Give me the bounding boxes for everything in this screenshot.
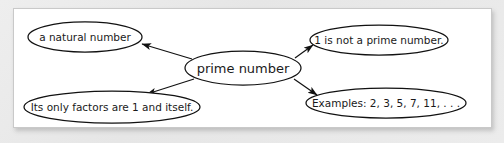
node-examples[interactable]: Examples: 2, 3, 5, 7, 11, . . . <box>306 88 466 118</box>
edge-to-only-factors <box>147 79 194 94</box>
diagram-panel: a natural number 1 is not a prime number… <box>13 8 492 128</box>
node-only-factors-label: Its only factors are 1 and itself. <box>31 101 194 113</box>
node-one-not-prime[interactable]: 1 is not a prime number. <box>310 25 448 55</box>
node-examples-label: Examples: 2, 3, 5, 7, 11, . . . <box>312 97 460 109</box>
node-natural-number[interactable]: a natural number <box>28 22 142 52</box>
node-only-factors[interactable]: Its only factors are 1 and itself. <box>24 91 200 123</box>
node-natural-number-label: a natural number <box>39 31 131 43</box>
node-prime-number-label: prime number <box>197 61 290 76</box>
edge-to-examples <box>294 79 317 95</box>
edge-to-natural-number <box>142 44 192 59</box>
diagram-scene: a natural number 1 is not a prime number… <box>0 0 504 143</box>
node-one-not-prime-label: 1 is not a prime number. <box>314 34 443 46</box>
edge-to-one-not-prime <box>295 45 313 58</box>
node-prime-number[interactable]: prime number <box>185 51 301 85</box>
concept-map-svg: a natural number 1 is not a prime number… <box>14 9 492 128</box>
